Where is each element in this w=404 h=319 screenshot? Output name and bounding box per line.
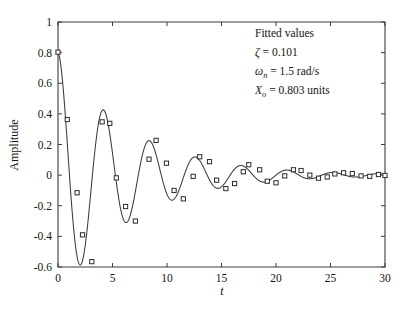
y-tick-label: 0.6 xyxy=(38,77,53,89)
data-point-marker xyxy=(215,178,219,182)
y-tick-label: 0 xyxy=(46,169,52,181)
data-point-marker xyxy=(75,191,79,195)
data-point-marker xyxy=(359,174,363,178)
data-point-marker xyxy=(147,157,151,161)
data-point-marker xyxy=(56,50,60,54)
data-point-marker xyxy=(191,174,195,178)
data-point-marker xyxy=(368,174,372,178)
x-tick-label: 0 xyxy=(55,272,61,284)
data-point-marker xyxy=(154,138,158,142)
data-point-marker xyxy=(350,171,354,175)
data-point-marker xyxy=(207,160,211,164)
data-point-marker xyxy=(341,171,345,175)
data-point-marker xyxy=(299,168,303,172)
y-tick-label: -0.6 xyxy=(34,261,52,273)
x-tick-label: 20 xyxy=(270,272,282,284)
y-tick-label: -0.2 xyxy=(34,200,52,212)
data-point-marker xyxy=(123,204,127,208)
x-tick-label: 10 xyxy=(161,272,173,284)
x-tick-label: 5 xyxy=(110,272,116,284)
annotation-title: Fitted values xyxy=(255,27,315,39)
x-tick-label: 25 xyxy=(325,272,337,284)
data-point-marker xyxy=(258,168,262,172)
y-tick-label: 0.4 xyxy=(38,108,53,120)
y-tick-label: 0.2 xyxy=(38,139,53,151)
data-point-marker xyxy=(232,181,236,185)
data-point-marker xyxy=(265,179,269,183)
data-point-marker xyxy=(172,188,176,192)
damped-oscillation-plot: 10.80.60.40.20-0.2-0.4-0.6 051015202530 … xyxy=(0,0,404,319)
data-point-marker xyxy=(241,170,245,174)
data-point-marker xyxy=(181,197,185,201)
data-point-marker xyxy=(80,233,84,237)
data-point-marker xyxy=(274,181,278,185)
y-axis-label: Amplitude xyxy=(7,119,21,170)
data-point-marker xyxy=(108,121,112,125)
annotation-zeta: ζ = 0.101 xyxy=(255,46,298,59)
data-point-marker xyxy=(247,163,251,167)
data-point-marker xyxy=(164,161,168,165)
data-point-marker xyxy=(65,117,69,121)
x-tick-label: 15 xyxy=(216,272,228,284)
data-point-marker xyxy=(133,219,137,223)
data-point-marker xyxy=(316,176,320,180)
data-point-marker xyxy=(383,173,387,177)
chart-figure: 10.80.60.40.20-0.2-0.4-0.6 051015202530 … xyxy=(0,0,404,319)
data-point-marker xyxy=(308,173,312,177)
data-point-marker xyxy=(333,172,337,176)
data-point-marker xyxy=(90,260,94,264)
data-point-marker xyxy=(114,176,118,180)
data-point-marker xyxy=(376,172,380,176)
y-tick-label: 1 xyxy=(46,16,52,28)
data-point-marker xyxy=(224,187,228,191)
x-tick-label: 30 xyxy=(379,272,391,284)
data-point-marker xyxy=(283,174,287,178)
data-point-marker xyxy=(325,175,329,179)
data-point-marker xyxy=(291,168,295,172)
data-point-marker xyxy=(100,120,104,124)
data-point-marker xyxy=(198,155,202,159)
y-tick-label: -0.4 xyxy=(34,230,52,242)
y-tick-label: 0.8 xyxy=(38,47,53,59)
